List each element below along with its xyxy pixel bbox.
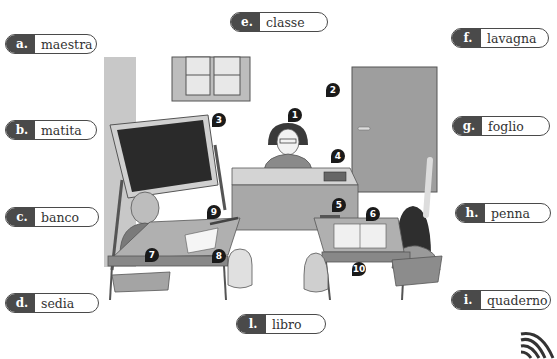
marker-9: 9 [207,205,221,219]
label-word: sedia [35,294,98,312]
label-i: i. quaderno [451,290,551,310]
label-word: classe [260,13,327,31]
backpack-icon [304,253,328,292]
label-l: l. libro [236,314,326,334]
teacher-figure [264,123,312,170]
label-e: e. classe [230,12,328,32]
audio-icon [517,330,557,359]
chair-icon [392,256,442,286]
label-g: g. foglio [452,116,550,136]
marker-6: 6 [366,207,380,221]
label-word: foglio [482,117,549,135]
door-icon [352,67,437,192]
marker-5: 5 [332,198,346,212]
window-icon [172,57,250,101]
marker-8: 8 [212,249,226,263]
chair-icon [112,272,170,292]
marker-10: 10 [352,262,366,276]
label-c: c. banco [5,207,99,227]
label-a: a. maestra [5,34,97,54]
label-letter: a. [6,35,35,53]
label-word: maestra [35,35,97,53]
label-word: penna [485,204,550,222]
classroom-illustration [100,40,460,310]
label-word: banco [35,208,98,226]
marker-7: 7 [145,248,159,262]
label-f: f. lavagna [451,28,549,48]
book-icon [324,172,346,181]
label-word: libro [266,315,325,333]
label-letter: c. [6,208,35,226]
marker-3: 3 [212,113,226,127]
label-letter: b. [6,121,35,139]
label-letter: e. [231,13,260,31]
label-h: h. penna [455,203,551,223]
pen-icon [320,215,340,218]
marker-1: 1 [288,108,302,122]
marker-4: 4 [331,149,345,163]
label-letter: l. [237,315,266,333]
marker-2: 2 [326,83,340,97]
label-letter: h. [456,204,485,222]
label-letter: d. [6,294,35,312]
label-word: quaderno [481,291,551,309]
label-d: d. sedia [5,293,99,313]
backpack-icon [228,249,252,288]
label-word: matita [35,121,96,139]
label-word: lavagna [481,29,548,47]
label-b: b. matita [5,120,97,140]
